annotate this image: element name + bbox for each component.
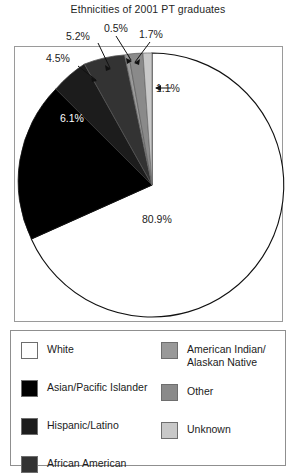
legend-item-asian-pacific-islander: Asian/Pacific Islander <box>21 379 161 405</box>
legend-swatch-american-indian <box>161 342 178 359</box>
slice-label-african-american: 5.2% <box>66 30 90 42</box>
legend-swatch-unknown <box>161 422 178 439</box>
legend-column-right: American Indian/ Alaskan Native Other Un… <box>161 341 281 459</box>
slice-label-unknown: 1.1% <box>156 82 180 94</box>
legend-item-american-indian: American Indian/ Alaskan Native <box>161 341 281 371</box>
legend-swatch-white <box>21 342 38 359</box>
legend-label-unknown: Unknown <box>187 421 231 436</box>
legend-column-left: White Asian/Pacific Islander Hispanic/La… <box>21 341 161 476</box>
pie-svg <box>0 0 296 330</box>
legend-swatch-african-american <box>21 456 38 473</box>
legend-label-asian-pacific-islander: Asian/Pacific Islander <box>47 379 147 394</box>
slice-label-other: 1.7% <box>139 28 163 40</box>
slice-label-hispanic-latino: 4.5% <box>46 52 70 64</box>
legend-label-american-indian: American Indian/ Alaskan Native <box>187 341 266 368</box>
legend-label-white: White <box>47 341 74 356</box>
legend-swatch-hispanic-latino <box>21 418 38 435</box>
legend: White Asian/Pacific Islander Hispanic/La… <box>10 330 286 466</box>
legend-label-african-american: African American <box>47 455 126 470</box>
legend-item-unknown: Unknown <box>161 421 281 447</box>
legend-item-other: Other <box>161 383 281 409</box>
legend-item-african-american: African American <box>21 455 161 476</box>
legend-item-hispanic-latino: Hispanic/Latino <box>21 417 161 443</box>
legend-item-white: White <box>21 341 161 367</box>
legend-swatch-other <box>161 384 178 401</box>
legend-swatch-asian-pacific-islander <box>21 380 38 397</box>
legend-label-other: Other <box>187 383 213 398</box>
slice-label-white: 80.9% <box>142 213 172 225</box>
legend-label-hispanic-latino: Hispanic/Latino <box>47 417 119 432</box>
slice-label-asian-pacific-islander: 6.1% <box>60 112 84 124</box>
pie-chart <box>0 0 296 330</box>
slice-label-american-indian: 0.5% <box>104 22 128 34</box>
